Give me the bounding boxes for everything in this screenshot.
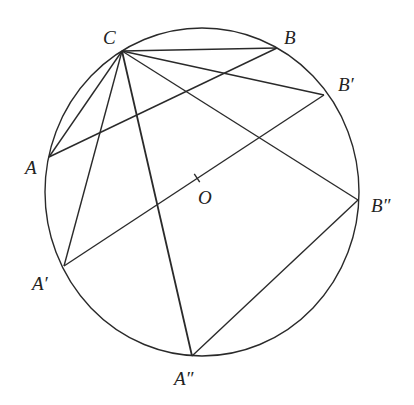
geometry-diagram: C B B′ B″ A A′ A″ O <box>0 0 414 405</box>
label-point-a: A <box>25 158 37 177</box>
label-center-o: O <box>198 188 212 207</box>
label-point-a-double-prime: A″ <box>174 369 194 388</box>
label-point-b-prime: B′ <box>338 75 354 94</box>
label-point-c: C <box>103 28 116 47</box>
segment-c-a <box>49 51 122 157</box>
segment-c-b <box>122 48 277 51</box>
label-point-b-double-prime: B″ <box>371 196 391 215</box>
label-point-b: B <box>284 28 296 47</box>
segment-c-b1 <box>122 51 324 95</box>
segment-a-b <box>49 48 277 157</box>
segment-c-a2 <box>122 51 192 356</box>
segment-c-b2 <box>122 51 358 200</box>
label-point-a-prime: A′ <box>32 274 48 293</box>
segment-a2-b2 <box>192 200 358 356</box>
